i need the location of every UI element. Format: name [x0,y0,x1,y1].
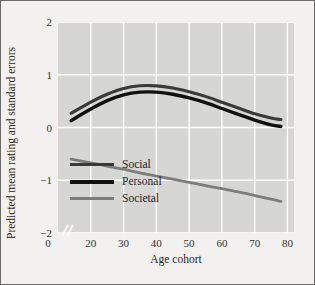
legend-label: Social [122,159,151,171]
y-tick-label: 2 [26,17,52,28]
x-tick-label: 80 [272,238,302,249]
y-tick-label: −1 [26,175,52,186]
legend-swatch-line-icon [70,180,114,184]
x-tick-label: 70 [240,238,270,249]
legend-item: Societal [70,190,188,207]
legend: SocialPersonalSocietal [70,156,188,207]
x-tick-label: 60 [207,238,237,249]
x-tick-label: 0 [33,238,63,249]
x-tick-label: 20 [76,238,106,249]
legend-swatch-line-icon [70,197,114,200]
x-axis-title: Age cohort [58,253,294,265]
plot-area: SocialPersonalSocietal [58,22,294,233]
legend-label: Societal [122,193,159,205]
x-axis-tick-labels: 020304050607080 [0,238,315,254]
x-tick-label: 50 [174,238,204,249]
chart-figure: Predicted mean rating and standard error… [0,0,315,285]
y-tick-label: 1 [26,69,52,80]
x-tick-label: 40 [141,238,171,249]
axis-break-icon [60,224,76,238]
x-tick-label: 30 [109,238,139,249]
legend-label: Personal [122,176,162,188]
legend-item: Social [70,156,188,173]
y-tick-label: 0 [26,122,52,133]
legend-swatch-line-icon [70,163,114,166]
legend-item: Personal [70,173,188,190]
y-axis-title: Predicted mean rating and standard error… [5,47,17,239]
